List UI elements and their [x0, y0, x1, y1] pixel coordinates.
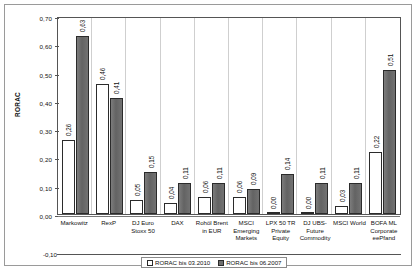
bar[interactable]: [164, 203, 177, 214]
bar-item[interactable]: 0,15: [144, 172, 157, 214]
x-axis-label-line: DJ UBS-: [298, 219, 332, 227]
bar-item[interactable]: 0,11: [178, 183, 191, 214]
x-axis-category-label: DAX: [160, 217, 194, 251]
y-axis-tick-label: 0,40: [12, 103, 52, 110]
y-axis-tick-negative: -0,10: [11, 251, 57, 258]
bar-item[interactable]: 0,03: [335, 206, 348, 214]
bar-item[interactable]: 0,63: [76, 36, 89, 214]
bar-item[interactable]: 0,05: [130, 200, 143, 214]
bar-item[interactable]: 0,46: [96, 84, 109, 214]
x-axis-label-line: Stoxx 50: [126, 227, 160, 235]
bar-group: 0,220,51: [366, 18, 400, 214]
x-axis-label-line: Rohöl Brent: [195, 219, 229, 227]
bar-item[interactable]: 0,09: [247, 189, 260, 214]
x-axis-label-line: Corporate: [367, 227, 401, 235]
bar-item[interactable]: 0,22: [369, 152, 382, 214]
x-axis-label-line: in EUR: [195, 227, 229, 235]
bar[interactable]: [233, 197, 246, 214]
bar-item[interactable]: 0,14: [281, 174, 294, 214]
x-axis-label-line: RexP: [91, 219, 125, 227]
x-axis-label-line: eePfand: [367, 234, 401, 242]
y-axis-tick-text: 0,60: [12, 43, 52, 50]
bar[interactable]: [247, 189, 260, 214]
bar[interactable]: [62, 140, 75, 214]
bar[interactable]: [76, 36, 89, 214]
bar-item[interactable]: 0,41: [110, 98, 123, 214]
bar-value-label: 0,14: [284, 158, 291, 170]
y-axis-tick-label: 0,30: [12, 131, 52, 138]
plot-area: 0,700,600,500,400,300,200,100,00 0,260,6…: [57, 17, 401, 215]
legend-label: RORAC bis 03.2010: [155, 259, 210, 266]
legend-item[interactable]: RORAC bis 03.2010: [147, 259, 210, 266]
bar[interactable]: [383, 70, 396, 214]
bar[interactable]: [96, 84, 109, 214]
bar-pair: 0,000,11: [297, 18, 331, 214]
bar-group: 0,030,11: [332, 18, 366, 214]
bar-pair: 0,050,15: [126, 18, 160, 214]
bar[interactable]: [178, 183, 191, 214]
bar[interactable]: [335, 206, 348, 214]
x-axis-label-line: DJ Euro: [126, 219, 160, 227]
bar-item[interactable]: 0,00: [267, 212, 280, 214]
bar-group: 0,000,14: [263, 18, 297, 214]
bar-value-label: 0,51: [387, 53, 394, 65]
y-axis-tick-text: 0,10: [12, 184, 52, 191]
bar-item[interactable]: 0,00: [301, 212, 314, 214]
x-axis-label-line: BOFA ML: [367, 219, 401, 227]
bar[interactable]: [281, 174, 294, 214]
y-axis-tick-label: 0,50: [12, 75, 52, 82]
bar[interactable]: [144, 172, 157, 214]
bar-value-label: 0,09: [250, 172, 257, 184]
x-axis-category-label: LPX 50 TRPrivate Equity: [263, 217, 297, 251]
bar-item[interactable]: 0,04: [164, 203, 177, 214]
bar-value-label: 0,11: [319, 167, 326, 179]
bar-item[interactable]: 0,11: [349, 183, 362, 214]
bar-item[interactable]: 0,06: [233, 197, 246, 214]
bar-value-label: 0,06: [236, 181, 243, 193]
bar[interactable]: [212, 183, 225, 214]
bar-pair: 0,460,41: [92, 18, 126, 214]
bar[interactable]: [110, 98, 123, 214]
x-axis-category-label: MSCIEmergingMarkets: [229, 217, 263, 251]
x-axis-category-label: RexP: [91, 217, 125, 251]
bar-value-label: 0,11: [353, 167, 360, 179]
bar-value-label: 0,00: [305, 197, 312, 209]
x-axis-label-line: Markowitz: [57, 219, 91, 227]
bar[interactable]: [349, 183, 362, 214]
bar-value-label: 0,26: [65, 124, 72, 136]
bar-group: 0,040,11: [161, 18, 195, 214]
x-axis-label-line: LPX 50 TR: [263, 219, 297, 227]
bar-item[interactable]: 0,51: [383, 70, 396, 214]
y-axis-tick-text: 0,40: [12, 99, 52, 106]
bar-groups: 0,260,630,460,410,050,150,040,110,060,11…: [58, 18, 400, 214]
bar[interactable]: [130, 200, 143, 214]
bar-value-label: 0,11: [216, 167, 223, 179]
x-axis-labels: MarkowitzRexPDJ EuroStoxx 50DAXRohöl Bre…: [57, 217, 401, 251]
bar[interactable]: [369, 152, 382, 214]
x-axis-label-line: Emerging: [229, 227, 263, 235]
bar-pair: 0,060,09: [229, 18, 263, 214]
legend-item[interactable]: RORAC bis 06.2007: [218, 259, 281, 266]
bar-pair: 0,060,11: [195, 18, 229, 214]
y-axis-tick-text: 0,00: [12, 213, 52, 220]
bar-item[interactable]: 0,26: [62, 140, 75, 214]
chart-legend: RORAC bis 03.2010RORAC bis 06.2007: [141, 257, 287, 268]
y-axis-tick-label: 0,60: [12, 46, 52, 53]
bar[interactable]: [301, 212, 314, 214]
bar-group: 0,060,11: [195, 18, 229, 214]
y-axis-tick-text: 0,70: [12, 15, 52, 22]
y-axis-tick-text: 0,30: [12, 128, 52, 135]
x-axis-label-line: MSCI World: [332, 219, 366, 227]
x-axis-baseline: [57, 254, 401, 255]
bar-value-label: 0,04: [168, 186, 175, 198]
legend-label: RORAC bis 06.2007: [226, 259, 281, 266]
bar-item[interactable]: 0,11: [315, 183, 328, 214]
bar-pair: 0,040,11: [161, 18, 195, 214]
bar-item[interactable]: 0,11: [212, 183, 225, 214]
bar[interactable]: [198, 197, 211, 214]
bar[interactable]: [315, 183, 328, 214]
bar-item[interactable]: 0,06: [198, 197, 211, 214]
bar[interactable]: [267, 212, 280, 214]
bar-group: 0,460,41: [92, 18, 126, 214]
x-axis-label-line: Markets: [229, 234, 263, 242]
